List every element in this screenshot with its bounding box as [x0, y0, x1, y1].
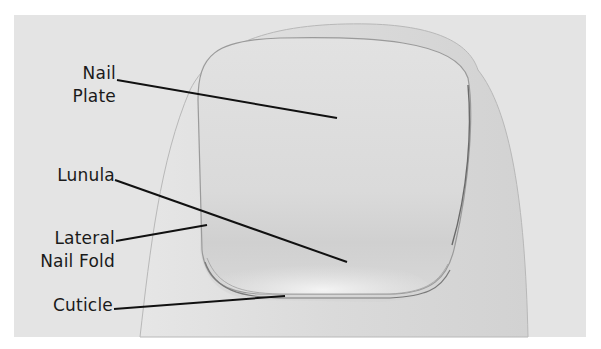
label-lateral-line1: Lateral [40, 229, 115, 248]
label-lunula-text: Lunula [57, 166, 115, 185]
label-nail-plate-line2: Plate [72, 87, 116, 106]
label-cuticle-text: Cuticle [53, 296, 113, 315]
label-nail-plate: Nail Plate [72, 64, 116, 106]
label-lunula: Lunula [57, 166, 115, 185]
label-lateral-line2: Nail Fold [40, 252, 115, 271]
label-cuticle: Cuticle [53, 296, 113, 315]
label-lateral-nail-fold: Lateral Nail Fold [40, 229, 115, 271]
label-nail-plate-line1: Nail [72, 64, 116, 83]
